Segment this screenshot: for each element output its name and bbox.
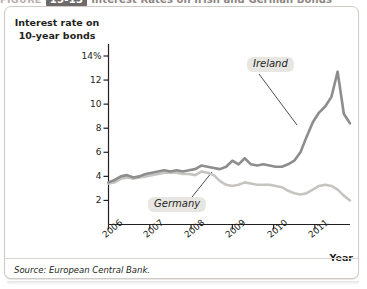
figure-label-word: FIGURE xyxy=(0,0,42,5)
figure-number-badge: 15-13 xyxy=(46,0,87,6)
y-axis-tick-label: 8 xyxy=(68,124,102,133)
y-axis-tick-label: 6 xyxy=(68,148,102,157)
y-axis-title: Interest rate on 10-year bonds xyxy=(14,17,100,42)
figure-title: Interest Rates on Irish and German Bonds xyxy=(91,0,332,5)
source-note: Source: European Central Bank. xyxy=(14,265,150,275)
y-axis-tick-label: 10 xyxy=(68,100,102,109)
y-axis-tick-label: 12 xyxy=(68,76,102,85)
y-axis-title-line-1: Interest rate on xyxy=(14,17,100,30)
y-axis-tick-label: 2 xyxy=(68,196,102,205)
panel-drop-shadow xyxy=(7,281,359,285)
y-axis-title-line-2: 10-year bonds xyxy=(14,30,100,43)
figure-panel xyxy=(4,6,359,279)
callout-germany: Germany xyxy=(148,197,206,212)
y-axis-tick-label: 4 xyxy=(68,172,102,181)
source-divider xyxy=(5,258,358,259)
y-axis-tick-label: 14% xyxy=(68,52,102,61)
callout-ireland: Ireland xyxy=(247,57,294,72)
